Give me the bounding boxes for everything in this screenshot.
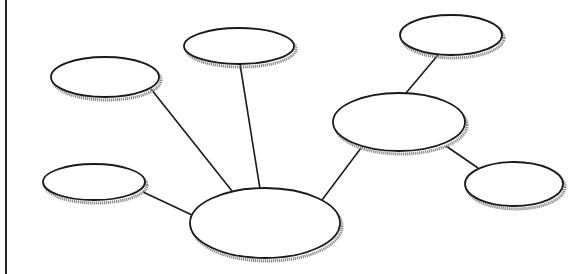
- connector-top-left-to-center: [151, 89, 232, 191]
- ellipse-top-center: [184, 28, 294, 64]
- node-right-hub: [333, 93, 467, 154]
- node-bottom-left: [43, 164, 147, 203]
- node-top-center: [184, 28, 296, 67]
- connector-top-center-to-center: [240, 64, 260, 189]
- ellipse-right-hub: [333, 93, 465, 151]
- ellipse-nodes: [43, 15, 565, 261]
- node-top-left: [51, 57, 161, 100]
- connector-bottom-left-to-center: [143, 192, 192, 215]
- ellipse-bottom-right: [465, 162, 563, 206]
- concept-web-diagram: [0, 0, 585, 274]
- connector-right-hub-to-bottom-right: [446, 146, 478, 168]
- node-top-right: [400, 15, 504, 58]
- ellipse-center: [190, 188, 340, 258]
- ellipse-bottom-left: [43, 164, 145, 200]
- node-center: [190, 188, 342, 261]
- connector-right-hub-to-center: [322, 148, 361, 200]
- connector-top-right-to-right-hub: [406, 55, 438, 93]
- ellipse-top-right: [400, 15, 502, 55]
- ellipse-top-left: [51, 57, 159, 97]
- node-bottom-right: [465, 162, 565, 209]
